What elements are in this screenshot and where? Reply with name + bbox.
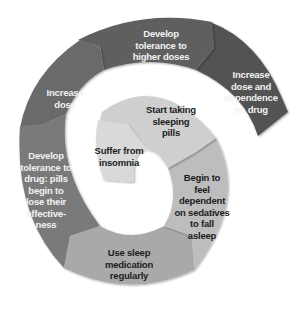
label-step-2: Start taking sleeping pills — [136, 104, 206, 139]
label-line: to fall — [170, 218, 234, 230]
label-line: asleep — [170, 230, 234, 242]
label-step-6: Increase dose — [38, 87, 92, 110]
label-line: dose — [38, 99, 92, 111]
label-line: medication — [94, 259, 164, 271]
label-step-1: Suffer from insomnia — [92, 145, 146, 168]
label-line: insomnia — [92, 157, 146, 169]
segment-6 — [20, 40, 104, 128]
label-line: begin to — [16, 185, 76, 197]
label-step-8: Increase dose and dependence on drug — [219, 69, 283, 115]
label-line: on drug — [219, 104, 283, 116]
label-step-4: Use sleep medication regularly — [94, 247, 164, 282]
label-line: dependence — [219, 92, 283, 104]
label-line: Begin to — [170, 172, 234, 184]
label-line: higher doses — [126, 51, 196, 63]
label-line: Increase — [38, 87, 92, 99]
label-line: Develop — [126, 28, 196, 40]
label-line: Use sleep — [94, 247, 164, 259]
label-line: effective- — [16, 208, 76, 220]
spiral-diagram: Suffer from insomnia Start taking sleepi… — [0, 0, 295, 309]
label-line: ness — [16, 219, 76, 231]
label-line: drug: pills — [16, 173, 76, 185]
label-line: on sedatives — [170, 207, 234, 219]
label-line: regularly — [94, 270, 164, 282]
label-line: tolerance to — [16, 162, 76, 174]
label-line: Develop — [16, 150, 76, 162]
label-step-3: Begin to feel dependent on sedatives to … — [170, 172, 234, 241]
label-step-5: Develop tolerance to drug: pills begin t… — [16, 150, 76, 231]
label-line: Suffer from — [92, 145, 146, 157]
label-line: lose their — [16, 196, 76, 208]
label-line: tolerance to — [126, 40, 196, 52]
label-line: Start taking — [136, 104, 206, 116]
label-step-7: Develop tolerance to higher doses — [126, 28, 196, 63]
label-line: sleeping — [136, 116, 206, 128]
label-line: dependent — [170, 195, 234, 207]
label-line: pills — [136, 127, 206, 139]
label-line: dose and — [219, 81, 283, 93]
label-line: Increase — [219, 69, 283, 81]
label-line: feel — [170, 184, 234, 196]
